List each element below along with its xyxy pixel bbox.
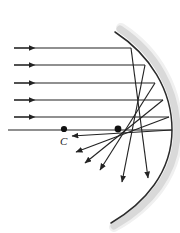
ray-diagram-figure: C [0, 0, 180, 233]
paraxial-focus-dot [115, 126, 122, 133]
center-of-curvature-label: C [60, 135, 68, 147]
optics-ray-diagram-canvas: C [0, 0, 180, 233]
reflected-ray-1 [131, 48, 148, 178]
marked-points-group [61, 126, 122, 133]
labels-group: C [60, 135, 68, 147]
center-of-curvature-dot [61, 126, 67, 132]
